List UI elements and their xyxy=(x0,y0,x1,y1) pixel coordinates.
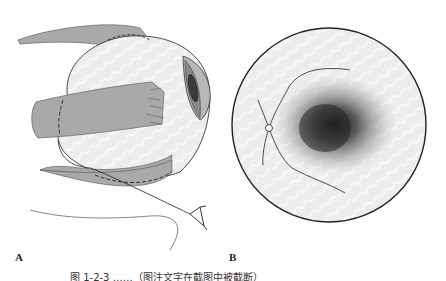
eyeball-lateral-view xyxy=(18,25,210,250)
figure-caption: 图 1-2-3 ……（图注文字在截图中被截断） xyxy=(70,271,390,281)
optic-disc xyxy=(266,125,273,132)
panel-label-b: B xyxy=(229,251,236,263)
medical-figure: A B 图 1-2-3 ……（图注文字在截图中被截断） xyxy=(0,0,446,281)
figure-illustration xyxy=(0,0,446,281)
fundus-view xyxy=(232,28,426,222)
panel-label-a: A xyxy=(15,251,23,263)
